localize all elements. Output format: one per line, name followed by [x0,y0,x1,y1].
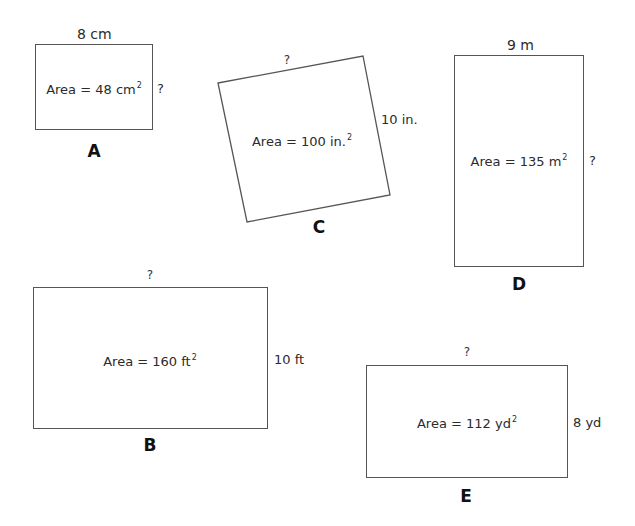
rectangle-b-top-label: ? [147,268,153,282]
area-text: Area = 112 yd [417,416,511,431]
rectangle-e-letter: E [460,486,472,506]
area-exponent: 2 [347,133,352,142]
rectangle-e-top-label: ? [464,345,470,359]
rectangle-d-area: Area = 135 m2 [471,153,568,169]
area-exponent: 2 [512,415,517,424]
rectangle-b-side-label: 10 ft [274,352,304,367]
square-c-area: Area = 100 in.2 [252,133,352,149]
square-c-top-label: ? [284,53,290,67]
rectangle-d-letter: D [512,274,526,294]
rectangle-d-top-label: 9 m [507,37,534,53]
area-exponent: 2 [562,153,567,162]
area-text: Area = 100 in. [252,134,346,149]
square-c-side-label: 10 in. [381,112,418,127]
area-exponent: 2 [192,353,197,362]
rectangle-e-area: Area = 112 yd2 [417,415,517,431]
area-text: Area = 135 m [471,154,562,169]
rectangle-b-area: Area = 160 ft2 [103,353,197,369]
rectangle-b-letter: B [144,435,157,455]
rectangle-e-side-label: 8 yd [573,415,601,430]
area-text: Area = 160 ft [103,354,190,369]
rectangle-d-side-label: ? [589,153,596,168]
square-c-letter: C [313,217,325,237]
